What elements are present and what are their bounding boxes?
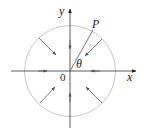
arrow-lower-right-icon [86,87,102,103]
arrow-upper-right-icon [85,39,102,56]
arrow-lower-left-icon [40,87,55,103]
x-axis-label: x [126,70,133,84]
arrow-upper-left-icon [39,38,56,55]
polar-diagram: y x 0 P θ [0,0,146,134]
origin-label: 0 [60,71,66,83]
y-axis-label: y [58,4,65,18]
point-p-label: P [91,17,100,31]
theta-label: θ [76,57,82,71]
